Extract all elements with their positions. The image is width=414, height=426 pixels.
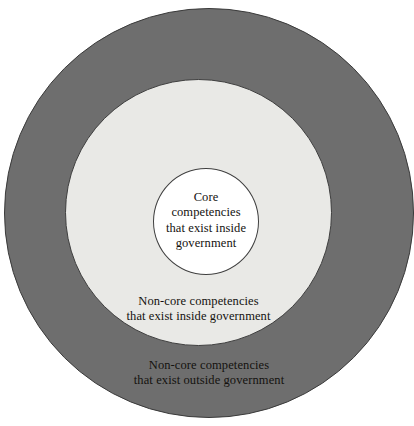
outer-ring-label: Non-core competencies that exist outside… [134, 358, 284, 389]
middle-ring-label: Non-core competencies that exist inside … [126, 294, 270, 325]
outer-ring-non-core-outside-government: Non-core competencies that exist outside… [4, 8, 414, 418]
inner-circle-core-competencies: Core competencies that exist inside gove… [153, 168, 259, 275]
middle-ring-non-core-inside-government: Non-core competencies that exist inside … [65, 79, 332, 346]
inner-circle-label: Core competencies that exist inside gove… [166, 190, 246, 251]
